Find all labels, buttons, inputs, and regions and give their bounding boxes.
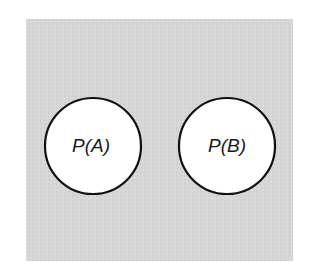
set-a-circle: P(A) xyxy=(45,98,141,194)
set-b-label: P(B) xyxy=(208,135,246,156)
venn-diagram: P(A) P(B) xyxy=(0,0,312,272)
set-b-circle: P(B) xyxy=(179,98,275,194)
set-a-label: P(A) xyxy=(72,135,110,156)
